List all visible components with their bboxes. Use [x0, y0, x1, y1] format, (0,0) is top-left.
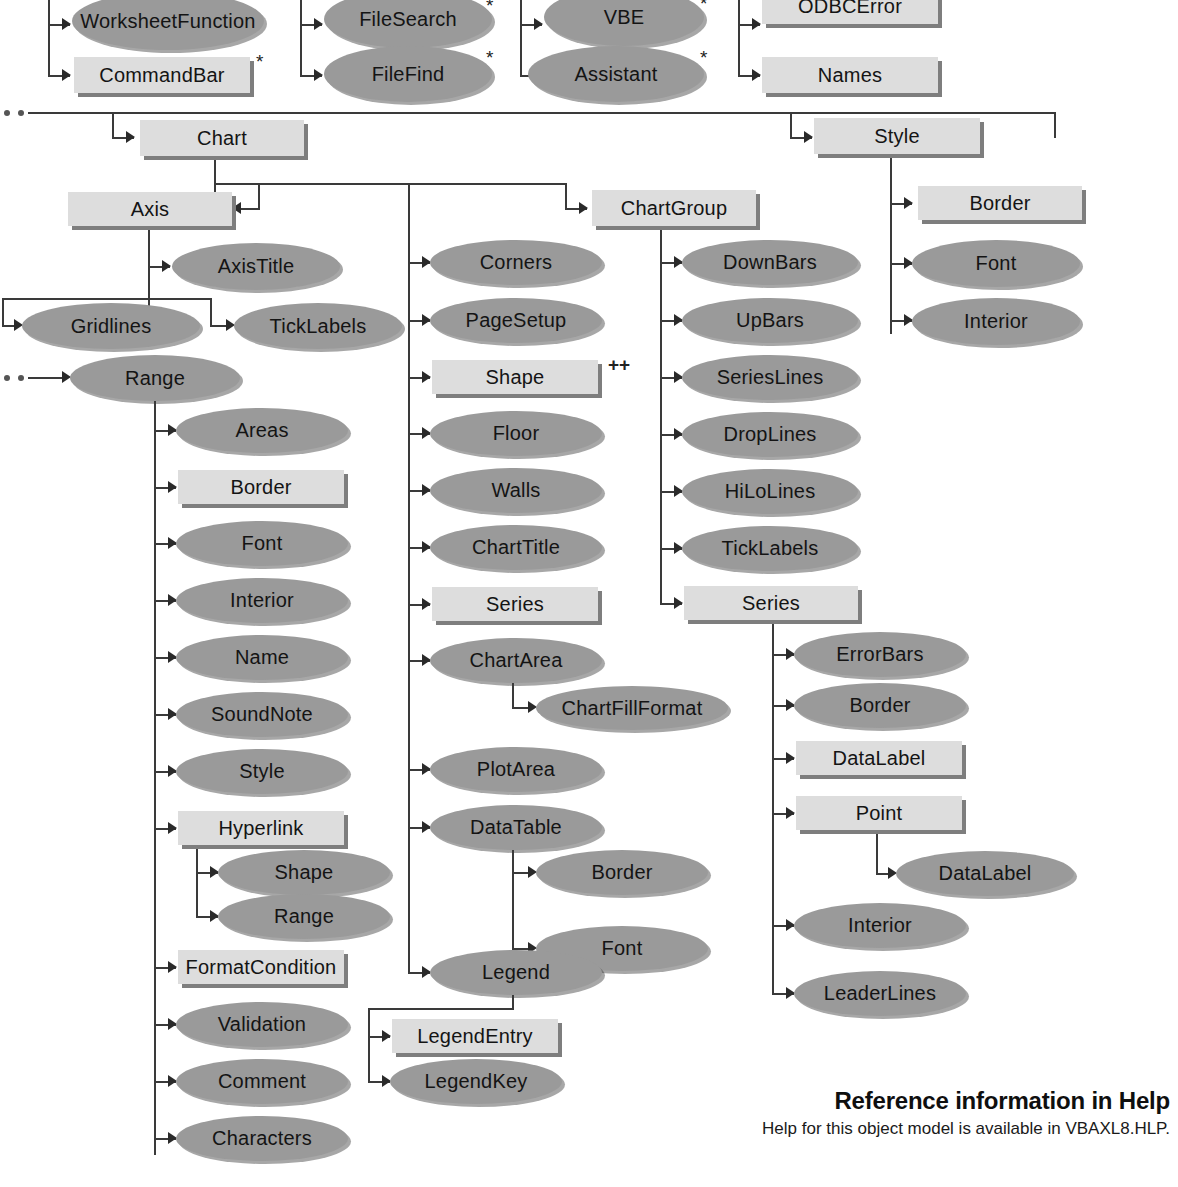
star-marker: * — [256, 52, 263, 71]
continuation-dot — [4, 375, 10, 381]
arrow-icon — [62, 69, 71, 81]
node-label: Legend — [482, 961, 550, 984]
node-plotarea[interactable]: PlotArea — [430, 747, 602, 792]
node-datatable[interactable]: DataTable — [430, 805, 602, 850]
node-filesearch[interactable]: FileSearch — [324, 0, 492, 48]
arrow-icon — [62, 18, 71, 30]
continuation-dot — [18, 110, 24, 116]
node-ticklabels-axis[interactable]: TickLabels — [234, 303, 402, 349]
node-label: Interior — [230, 589, 294, 612]
node-shape-hyperlink[interactable]: Shape — [218, 850, 390, 895]
node-interior-range[interactable]: Interior — [176, 578, 348, 623]
node-point[interactable]: Point — [796, 796, 962, 830]
node-range-hyperlink[interactable]: Range — [218, 894, 390, 939]
help-title: Reference information in Help — [762, 1087, 1170, 1115]
node-font-style[interactable]: Font — [912, 240, 1080, 287]
connector-v — [154, 398, 156, 1155]
node-formatcondition[interactable]: FormatCondition — [178, 950, 344, 984]
node-filefind[interactable]: FileFind — [324, 46, 492, 102]
node-errorbars[interactable]: ErrorBars — [794, 632, 966, 677]
arrow-icon — [168, 961, 177, 973]
node-chartarea[interactable]: ChartArea — [430, 638, 602, 683]
node-border-style[interactable]: Border — [918, 186, 1082, 220]
node-odbcerror[interactable]: ODBCError — [762, 0, 938, 24]
connector-v — [258, 183, 260, 209]
node-axistitle[interactable]: AxisTitle — [172, 243, 340, 290]
node-label: UpBars — [736, 309, 804, 332]
node-label: Style — [239, 760, 284, 783]
node-walls[interactable]: Walls — [430, 468, 602, 513]
node-ticklabels-chartgroup[interactable]: TickLabels — [682, 526, 858, 571]
node-style-range[interactable]: Style — [176, 749, 348, 794]
node-chart[interactable]: Chart — [140, 120, 304, 156]
connector-v — [112, 112, 114, 138]
node-characters[interactable]: Characters — [176, 1116, 348, 1161]
arrow-icon — [126, 131, 135, 143]
node-label: SoundNote — [211, 703, 313, 726]
arrow-icon — [534, 18, 543, 30]
node-series-chart[interactable]: Series — [432, 587, 598, 621]
node-label: Range — [125, 367, 185, 390]
connector-h — [2, 298, 150, 300]
node-assistant[interactable]: Assistant — [528, 46, 704, 102]
node-hyperlink[interactable]: Hyperlink — [178, 811, 344, 845]
node-label: Assistant — [575, 63, 658, 86]
node-label: Border — [230, 476, 291, 499]
node-style-top[interactable]: Style — [814, 118, 980, 154]
connector-v — [2, 298, 4, 326]
node-axis[interactable]: Axis — [68, 192, 232, 226]
node-border-series[interactable]: Border — [794, 683, 966, 728]
node-serieslines[interactable]: SeriesLines — [682, 355, 858, 400]
node-comment[interactable]: Comment — [176, 1059, 348, 1104]
node-series-chartgroup[interactable]: Series — [684, 586, 858, 620]
node-font-range[interactable]: Font — [176, 521, 348, 566]
node-pagesetup[interactable]: PageSetup — [430, 298, 602, 343]
node-datalabel-series[interactable]: DataLabel — [796, 741, 962, 775]
arrow-icon — [168, 481, 177, 493]
connector-v — [520, 0, 522, 76]
node-label: Hyperlink — [218, 817, 303, 840]
node-label: LegendEntry — [417, 1025, 533, 1048]
node-datalabel-point[interactable]: DataLabel — [896, 851, 1074, 896]
node-areas[interactable]: Areas — [176, 408, 348, 453]
node-legend[interactable]: Legend — [430, 950, 602, 995]
node-label: Series — [486, 593, 544, 616]
node-validation[interactable]: Validation — [176, 1002, 348, 1047]
node-charttitle[interactable]: ChartTitle — [430, 525, 602, 570]
node-droplines[interactable]: DropLines — [682, 412, 858, 457]
node-chartfillformat[interactable]: ChartFillFormat — [536, 686, 728, 730]
node-gridlines[interactable]: Gridlines — [22, 303, 200, 349]
node-names[interactable]: Names — [762, 57, 938, 93]
node-label: LeaderLines — [824, 982, 936, 1005]
node-label: Name — [235, 646, 289, 669]
node-label: DataLabel — [833, 747, 926, 770]
node-corners[interactable]: Corners — [430, 240, 602, 285]
node-label: Gridlines — [71, 315, 152, 338]
node-hilolines[interactable]: HiLoLines — [682, 469, 858, 514]
node-label: Interior — [848, 914, 912, 937]
node-border-range[interactable]: Border — [178, 470, 344, 504]
node-label: Validation — [218, 1013, 306, 1036]
node-border-datatable[interactable]: Border — [536, 850, 708, 895]
connector-v — [368, 1008, 370, 1081]
node-downbars[interactable]: DownBars — [682, 240, 858, 285]
node-commandbar[interactable]: CommandBar — [74, 57, 250, 93]
node-legendkey[interactable]: LegendKey — [390, 1059, 562, 1104]
node-upbars[interactable]: UpBars — [682, 298, 858, 343]
connector-v — [300, 0, 302, 76]
node-interior-style[interactable]: Interior — [912, 298, 1080, 345]
node-interior-series[interactable]: Interior — [794, 903, 966, 948]
node-shape-chart[interactable]: Shape — [432, 360, 598, 394]
node-vbe[interactable]: VBE — [544, 0, 704, 46]
node-leaderlines[interactable]: LeaderLines — [794, 971, 966, 1016]
node-chartgroup[interactable]: ChartGroup — [592, 190, 756, 226]
node-label: FileFind — [372, 63, 445, 86]
node-soundnote[interactable]: SoundNote — [176, 692, 348, 737]
star-marker: * — [700, 0, 707, 13]
node-floor[interactable]: Floor — [430, 411, 602, 456]
node-legendentry[interactable]: LegendEntry — [392, 1019, 558, 1053]
node-range[interactable]: Range — [70, 355, 240, 401]
node-worksheetfunction[interactable]: WorksheetFunction — [72, 0, 264, 50]
node-label: DropLines — [724, 423, 817, 446]
node-name-range[interactable]: Name — [176, 635, 348, 680]
